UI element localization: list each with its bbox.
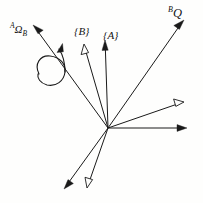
frame-b-axis-arrowhead (81, 44, 89, 55)
label-vector-q-symbol: Q (173, 6, 182, 20)
frame-a-axis-line (105, 47, 108, 128)
vector-upper-right-axis (108, 99, 184, 128)
vector-q (108, 20, 184, 128)
vector-frame-a-axis (102, 40, 108, 128)
vector-q-line (108, 28, 178, 128)
label-vector-q: BQ (168, 6, 182, 20)
vector-frame-b-axis (81, 44, 108, 128)
vector-lower-middle-axis (85, 128, 108, 188)
angular-velocity-axis-line (39, 33, 108, 128)
vector-horizontal-axis (108, 125, 187, 132)
angular-velocity-axis-arrowhead (33, 25, 43, 34)
label-angular-velocity-subscript: B (23, 29, 28, 38)
label-frame-b: {B} (74, 26, 90, 37)
frame-a-axis-arrowhead (102, 40, 108, 50)
lower-left-axis-line (69, 128, 108, 182)
figure-canvas (0, 0, 203, 203)
horizontal-axis-arrowhead (177, 125, 187, 132)
label-angular-velocity: AΩB (10, 22, 27, 37)
rotation-arc-tail (59, 49, 65, 72)
frame-b-axis-line (86, 52, 108, 128)
upper-right-axis-line (108, 105, 176, 129)
rotation-arc-arrowhead (57, 44, 63, 53)
lower-middle-axis-line (90, 128, 109, 181)
kinematics-figure: AΩB {B} {A} BQ (0, 0, 203, 203)
rotation-arc-path (37, 56, 65, 85)
vector-q-arrowhead (174, 20, 184, 29)
upper-right-axis-arrowhead (174, 99, 184, 106)
vector-angular-velocity-axis (33, 25, 108, 128)
label-angular-velocity-symbol: Ω (15, 23, 23, 35)
label-frame-a: {A} (103, 30, 119, 41)
lower-middle-axis-arrowhead (85, 177, 93, 188)
lower-left-axis-arrowhead (64, 180, 73, 189)
